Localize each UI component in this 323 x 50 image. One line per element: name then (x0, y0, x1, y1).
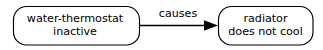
causal-diagram: water-thermostat inactive radiator does … (0, 0, 323, 50)
edge-causes-label: causes (150, 7, 206, 20)
node-effect-line-1: radiator (215, 12, 316, 25)
node-effect-line-2: does not cool (215, 25, 316, 38)
node-cause-line-1: water-thermostat (8, 12, 142, 25)
node-cause-label: water-thermostat inactive (8, 12, 142, 38)
node-effect-label: radiator does not cool (215, 12, 316, 38)
node-cause-line-2: inactive (8, 25, 142, 38)
